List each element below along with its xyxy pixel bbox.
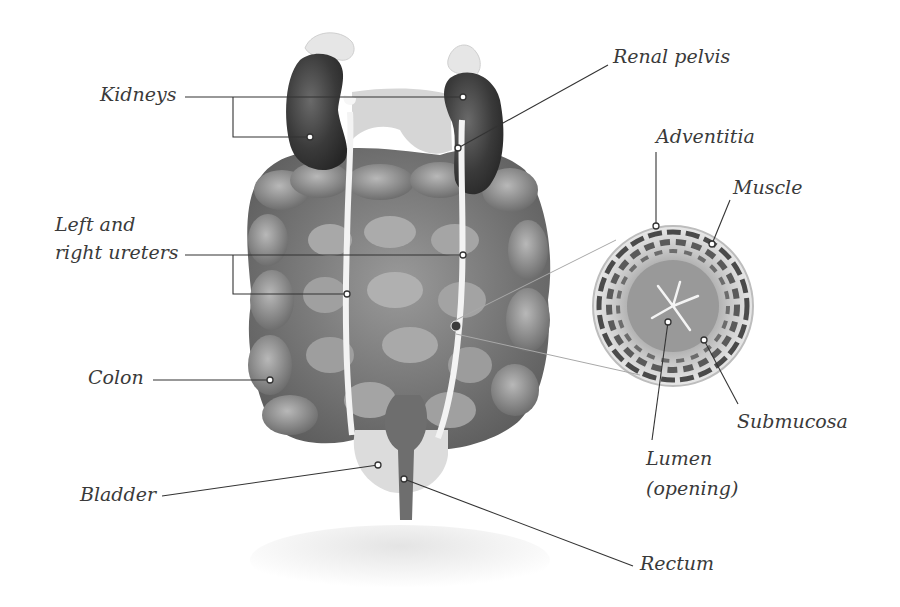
label-renal-pelvis: Renal pelvis <box>613 44 730 68</box>
ureter-section-marker <box>451 321 461 331</box>
label-lumen-line2: (opening) <box>646 476 738 500</box>
label-lumen-line1: Lumen <box>646 446 712 470</box>
label-kidneys: Kidneys <box>100 82 176 106</box>
ureter-cross-section <box>593 226 753 386</box>
label-ureters-line2: right ureters <box>55 240 179 264</box>
label-submucosa: Submucosa <box>737 409 848 433</box>
label-ureters-line1: Left and <box>55 212 135 236</box>
label-rectum: Rectum <box>640 551 714 575</box>
urinary-system-diagram: Kidneys Renal pelvis Left and right uret… <box>0 0 900 607</box>
connective-tissue <box>352 88 452 153</box>
label-bladder: Bladder <box>80 482 156 506</box>
label-adventitia: Adventitia <box>656 124 755 148</box>
label-muscle: Muscle <box>733 175 802 199</box>
label-colon: Colon <box>88 365 144 389</box>
floor-shadow <box>250 525 550 595</box>
